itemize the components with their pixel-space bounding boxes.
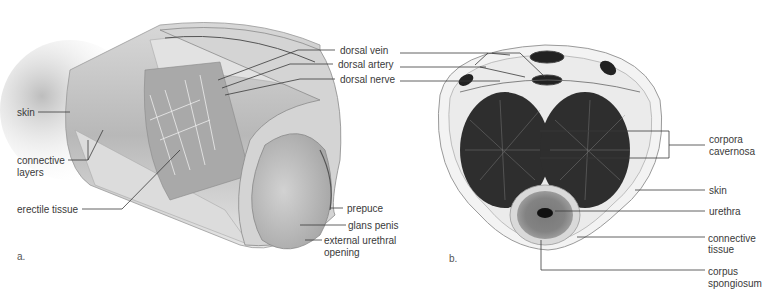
label-dorsal-nerve: dorsal nerve	[340, 74, 395, 85]
label-external-urethral-opening: external urethral	[324, 235, 396, 246]
panel-b-letter: b.	[449, 253, 457, 264]
label-corpora-cavernosa: corpora	[709, 134, 743, 145]
label-corpora-cavernosa-line2: cavernosa	[709, 146, 755, 157]
panel-a-letter: a.	[17, 251, 25, 262]
label-glans-penis: glans penis	[348, 220, 399, 231]
anatomy-illustration	[0, 0, 777, 294]
label-connective-tissue: connective	[708, 233, 756, 244]
label-external-urethral-opening-line2: opening	[324, 247, 360, 258]
label-dorsal-artery: dorsal artery	[338, 59, 394, 70]
label-skin-b: skin	[709, 185, 727, 196]
label-urethra: urethra	[709, 206, 741, 217]
label-erectile-tissue: erectile tissue	[17, 204, 78, 215]
label-corpus-spongiosum: corpus	[708, 266, 738, 277]
label-skin-a: skin	[17, 107, 35, 118]
label-dorsal-vein: dorsal vein	[340, 45, 388, 56]
label-connective-tissue-line2: tissue	[708, 244, 734, 255]
label-connective-layers: connective	[17, 155, 65, 166]
label-prepuce: prepuce	[347, 203, 383, 214]
label-corpus-spongiosum-line2: spongiosum	[708, 278, 762, 289]
panel-b-drawing	[438, 45, 661, 250]
label-connective-layers-line2: layers	[17, 167, 44, 178]
